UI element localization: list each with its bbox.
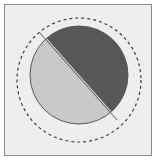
figure-root	[0, 0, 159, 164]
light-half-lower-left	[0, 0, 159, 164]
diagram-canvas	[0, 0, 159, 164]
